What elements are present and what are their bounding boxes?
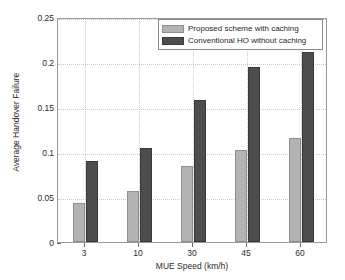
bar xyxy=(194,100,206,242)
bar-group xyxy=(73,19,98,242)
legend-swatch-icon xyxy=(162,25,184,33)
bar-group xyxy=(181,19,206,242)
bar xyxy=(181,166,193,242)
legend-label: Conventional HO without caching xyxy=(188,37,306,45)
legend: Proposed scheme with caching Conventiona… xyxy=(158,19,323,50)
x-axis-tick xyxy=(300,243,301,247)
y-axis-tick-label: 0 xyxy=(49,239,54,248)
y-axis-tick-label: 0.05 xyxy=(37,194,54,203)
y-axis-tick-label: 0.25 xyxy=(37,14,54,23)
bar xyxy=(140,148,152,243)
bar-series-container xyxy=(58,19,326,242)
x-axis-tick-label: 10 xyxy=(118,249,158,258)
figure-canvas: 00.050.10.150.20.25 310304560 Average Ha… xyxy=(0,0,345,280)
x-axis-tick xyxy=(246,243,247,247)
x-axis-tick xyxy=(192,243,193,247)
bar-group xyxy=(289,19,314,242)
bar xyxy=(302,52,314,242)
y-axis-tick-label: 0.15 xyxy=(37,104,54,113)
bar xyxy=(127,191,139,242)
x-axis-tick-label: 60 xyxy=(280,249,320,258)
x-axis-tick-label: 3 xyxy=(64,249,104,258)
x-axis-label: MUE Speed (km/h) xyxy=(57,262,327,271)
legend-item: Conventional HO without caching xyxy=(162,35,319,46)
legend-item: Proposed scheme with caching xyxy=(162,23,319,34)
y-axis-tick-label: 0.1 xyxy=(42,149,54,158)
legend-swatch-icon xyxy=(162,37,184,45)
x-axis-tick xyxy=(84,243,85,247)
bar xyxy=(289,138,301,242)
y-axis-label: Average Handover Failure xyxy=(12,62,21,182)
legend-label: Proposed scheme with caching xyxy=(188,25,299,33)
bar xyxy=(73,203,85,242)
bar xyxy=(235,150,247,242)
x-axis-tick-label: 30 xyxy=(172,249,212,258)
x-axis-tick xyxy=(138,243,139,247)
bar-group xyxy=(235,19,260,242)
bar xyxy=(86,161,98,242)
y-axis-tick-label: 0.2 xyxy=(42,59,54,68)
x-axis-tick-label: 45 xyxy=(226,249,266,258)
bar-group xyxy=(127,19,152,242)
bar xyxy=(248,67,260,243)
plot-area xyxy=(57,18,327,243)
y-axis-tick xyxy=(57,243,61,244)
